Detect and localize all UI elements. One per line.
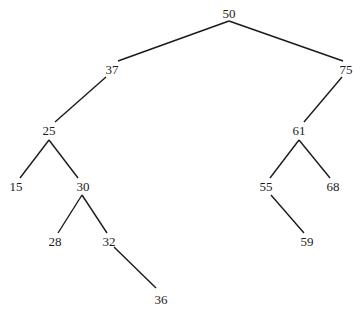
binary-tree-diagram: 50377525611530556828325936 bbox=[0, 0, 355, 313]
edge-25-15 bbox=[20, 140, 49, 178]
tree-node-36: 36 bbox=[155, 292, 169, 307]
tree-node-15: 15 bbox=[10, 179, 23, 194]
edge-30-28 bbox=[58, 195, 82, 233]
edge-61-68 bbox=[299, 140, 330, 178]
edge-55-59 bbox=[271, 195, 304, 233]
tree-node-37: 37 bbox=[106, 62, 120, 77]
edge-32-36 bbox=[114, 247, 156, 288]
edge-50-75 bbox=[229, 21, 343, 61]
edge-30-32 bbox=[82, 195, 107, 233]
tree-node-61: 61 bbox=[293, 123, 306, 138]
tree-node-32: 32 bbox=[103, 234, 116, 249]
tree-node-68: 68 bbox=[327, 179, 340, 194]
tree-node-75: 75 bbox=[340, 62, 353, 77]
tree-node-28: 28 bbox=[49, 234, 62, 249]
edge-61-55 bbox=[270, 140, 299, 178]
tree-node-30: 30 bbox=[77, 179, 90, 194]
tree-node-50: 50 bbox=[223, 6, 236, 21]
tree-node-55: 55 bbox=[260, 179, 273, 194]
tree-node-59: 59 bbox=[301, 234, 314, 249]
edge-37-25 bbox=[55, 77, 106, 122]
edge-25-30 bbox=[49, 140, 78, 178]
edge-50-37 bbox=[118, 21, 229, 61]
edge-75-61 bbox=[304, 77, 342, 122]
tree-edges bbox=[20, 21, 343, 288]
tree-node-25: 25 bbox=[43, 123, 56, 138]
